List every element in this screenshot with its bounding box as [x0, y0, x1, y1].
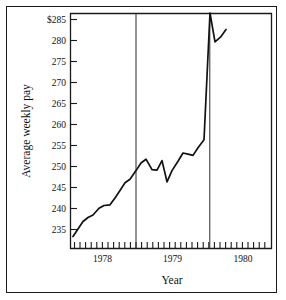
y-tick-label-240: 240: [52, 204, 67, 214]
x-axis-tick-labels: 1978 1979 1980: [93, 254, 253, 264]
y-tick-label-235: 235: [52, 225, 67, 235]
y-tick-label-250: 250: [52, 162, 67, 172]
x-tick-label-1978: 1978: [93, 254, 112, 264]
y-tick-label-265: 265: [52, 99, 67, 109]
figure-container: $285 280 275 270 265 260 255 250 245 240…: [0, 0, 286, 300]
y-tick-label-270: 270: [52, 78, 67, 88]
x-axis-ticks: [75, 242, 265, 249]
x-tick-label-1980: 1980: [234, 254, 253, 264]
y-tick-label-245: 245: [52, 183, 67, 193]
line-chart: $285 280 275 270 265 260 255 250 245 240…: [0, 0, 286, 300]
y-axis-tick-labels: $285 280 275 270 265 260 255 250 245 240…: [47, 15, 66, 235]
y-axis-ticks: [71, 20, 78, 230]
y-tick-label-260: 260: [52, 120, 67, 130]
pay-series-line: [73, 13, 226, 237]
y-tick-label-275: 275: [52, 57, 67, 67]
y-axis-title: Average weekly pay: [20, 84, 33, 178]
y-tick-label-280: 280: [52, 36, 67, 46]
y-tick-label-285: $285: [47, 15, 66, 25]
x-tick-label-1979: 1979: [163, 254, 182, 264]
y-tick-label-255: 255: [52, 141, 67, 151]
x-axis-title: Year: [161, 274, 182, 286]
